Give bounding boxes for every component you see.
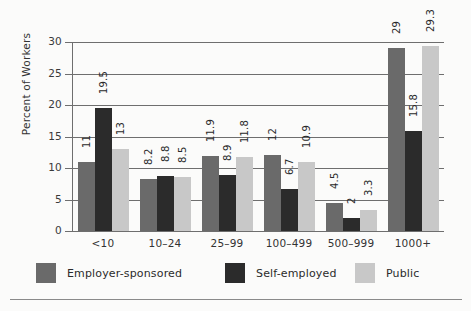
- x-axis-tick-label: 100–499: [258, 237, 320, 249]
- bar-cell: 2: [343, 42, 360, 231]
- legend-swatch: [355, 263, 375, 283]
- bar-value-label: 8.8: [160, 145, 171, 162]
- y-axis-tick-mark: [65, 74, 72, 75]
- bar: [236, 157, 253, 231]
- bar: [202, 156, 219, 231]
- bar-cell: 8.5: [174, 42, 191, 231]
- y-axis-tick-mark: [65, 105, 72, 106]
- bar-value-label: 3.3: [363, 180, 374, 197]
- bar-cell: 11.9: [202, 42, 219, 231]
- bar-value-label: 12: [267, 128, 278, 141]
- x-axis-tick-label: <10: [72, 237, 134, 249]
- bar-cell: 29: [388, 42, 405, 231]
- bar-value-label: 11: [81, 135, 92, 148]
- bar-cell: 13: [112, 42, 129, 231]
- x-axis-tick-label: 25–99: [196, 237, 258, 249]
- legend-item[interactable]: Self-employed: [225, 263, 337, 283]
- y-axis-tick-mark: [65, 231, 72, 232]
- x-axis-tick-label: 1000+: [382, 237, 444, 249]
- bar: [140, 179, 157, 231]
- bar: [78, 162, 95, 231]
- bar-value-label: 8.2: [143, 149, 154, 166]
- bar: [343, 218, 360, 231]
- x-axis-tick-label: 10–24: [134, 237, 196, 249]
- bar-group: 1119.513: [72, 42, 134, 231]
- bar: [157, 176, 174, 231]
- legend-swatch: [225, 263, 245, 283]
- bar: [326, 203, 343, 231]
- bar: [422, 46, 439, 231]
- bar-value-label: 6.7: [284, 158, 295, 175]
- bar: [264, 155, 281, 231]
- bar-value-label: 4.5: [329, 172, 340, 189]
- bar-group: 126.710.9: [258, 42, 320, 231]
- bar: [174, 177, 191, 231]
- bar-value-label: 15.8: [408, 94, 419, 117]
- bar: [281, 189, 298, 231]
- bar: [112, 149, 129, 231]
- y-axis-tick-mark: [65, 137, 72, 138]
- bar-group: 11.98.911.8: [196, 42, 258, 231]
- y-axis-tick-label: 5: [55, 193, 62, 205]
- legend-label: Employer-sponsored: [67, 267, 182, 280]
- y-axis-tick-label: 10: [48, 161, 62, 173]
- bar: [298, 162, 315, 231]
- bar-cell: 6.7: [281, 42, 298, 231]
- legend-item[interactable]: Employer-sponsored: [36, 263, 182, 283]
- bar-cell: 19.5: [95, 42, 112, 231]
- y-axis-tick-label: 15: [48, 130, 62, 142]
- legend-label: Public: [386, 267, 419, 280]
- x-axis-tick-labels: <1010–2425–99100–499500–9991000+: [72, 237, 444, 255]
- bar-value-label: 19.5: [98, 71, 109, 94]
- y-axis-tick-mark: [65, 42, 72, 43]
- bar-cell: 3.3: [360, 42, 377, 231]
- bar-group: 4.523.3: [320, 42, 382, 231]
- bar-value-label: 10.9: [301, 125, 312, 148]
- bar-value-label: 8.5: [177, 147, 188, 164]
- bar-cell: 8.9: [219, 42, 236, 231]
- gridline: [72, 231, 444, 232]
- bar-chart-figure: Percent of Workers 051015202530 1119.513…: [0, 0, 471, 311]
- bar-cell: 4.5: [326, 42, 343, 231]
- bar-value-label: 29.3: [425, 9, 436, 32]
- y-axis-tick-label: 20: [48, 98, 62, 110]
- bar-value-label: 8.9: [222, 144, 233, 161]
- bar: [388, 48, 405, 231]
- bar-cell: 8.8: [157, 42, 174, 231]
- plot-area: 1119.5138.28.88.511.98.911.8126.710.94.5…: [72, 42, 444, 231]
- legend-label: Self-employed: [256, 267, 337, 280]
- y-axis-tick-mark: [65, 200, 72, 201]
- bar-cell: 10.9: [298, 42, 315, 231]
- bar-group: 2915.829.3: [382, 42, 444, 231]
- legend-swatch: [36, 263, 56, 283]
- bar-value-label: 29: [391, 21, 402, 34]
- bar: [405, 131, 422, 231]
- bar: [360, 210, 377, 231]
- chart-legend: Employer-sponsoredSelf-employedPublic: [0, 263, 471, 293]
- bar-cell: 29.3: [422, 42, 439, 231]
- bar-cell: 15.8: [405, 42, 422, 231]
- legend-item[interactable]: Public: [355, 263, 419, 283]
- bar-value-label: 11.9: [205, 119, 216, 142]
- bottom-divider: [10, 299, 462, 300]
- bar-cell: 11: [78, 42, 95, 231]
- x-axis-tick-label: 500–999: [320, 237, 382, 249]
- bar: [219, 175, 236, 231]
- bar-value-label: 11.8: [239, 120, 250, 143]
- bar-group: 8.28.88.5: [134, 42, 196, 231]
- y-axis-tick-label: 30: [48, 35, 62, 47]
- y-axis-tick-label: 0: [55, 224, 62, 236]
- bar-cell: 11.8: [236, 42, 253, 231]
- bar-value-label: 13: [115, 122, 126, 135]
- bar: [95, 108, 112, 231]
- y-axis-tick-mark: [65, 168, 72, 169]
- bar-cell: 12: [264, 42, 281, 231]
- y-axis-tick-label: 25: [48, 67, 62, 79]
- bar-cell: 8.2: [140, 42, 157, 231]
- bar-value-label: 2: [346, 198, 357, 205]
